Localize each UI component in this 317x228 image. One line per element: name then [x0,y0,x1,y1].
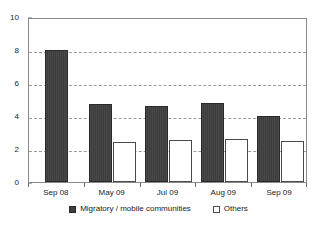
bar [201,103,224,182]
bar [113,142,136,182]
x-tick-mark [251,183,252,187]
gridline [29,52,306,53]
y-tick-label: 4 [15,113,19,121]
x-tick-mark [84,183,85,187]
bar-chart: 0246810 Sep 08May 09Jul 09Aug 09Sep 09 M… [0,0,317,228]
plot-frame [28,18,307,183]
bar [225,139,248,182]
gridline [29,85,306,86]
plot-area [29,19,306,182]
legend-swatch-hollow-square-icon [213,206,220,213]
x-tick-mark [28,183,29,187]
y-tick-label: 6 [15,80,19,88]
bar [281,141,304,182]
bar [145,106,168,182]
y-axis: 0246810 [0,18,25,183]
y-tick-label: 8 [15,47,19,55]
legend-swatch-filled-square-icon [69,206,76,213]
bar [45,50,68,182]
bar [257,116,280,182]
y-tick-label: 2 [15,146,19,154]
bar [89,104,112,182]
y-tick-label: 0 [15,179,19,187]
x-tick-mark [195,183,196,187]
x-tick-label: May 09 [99,189,125,197]
x-tick-label: Aug 09 [211,189,236,197]
x-tick-mark [306,183,307,187]
legend-label: Migratory / mobile communities [80,205,191,213]
y-tick-label: 10 [10,14,19,22]
legend-entry: Others [213,205,248,213]
legend-label: Others [224,205,248,213]
x-axis: Sep 08May 09Jul 09Aug 09Sep 09 [28,189,307,201]
chart-legend: Migratory / mobile communitiesOthers [0,205,317,213]
x-tick-label: Sep 08 [43,189,68,197]
x-tick-label: Sep 09 [266,189,291,197]
legend-entry: Migratory / mobile communities [69,205,191,213]
bar [169,140,192,182]
x-tick-mark [140,183,141,187]
x-tick-label: Jul 09 [157,189,178,197]
